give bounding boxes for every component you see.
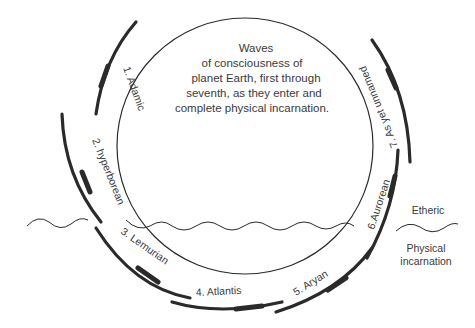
arrow-2-hyperborean [62,114,101,222]
center-text-line-3: planet Earth, first through [191,72,320,84]
center-text-line-4: seventh, as they enter and [186,87,322,99]
legend-etheric: Etheric [412,204,445,216]
wave-label-hyperborean: 2. hyperborean [90,136,128,206]
arrow-4-atlantis [172,302,282,309]
etheric-boundary-wave-left [27,219,88,228]
arrow-6-aurorean-head [390,176,395,196]
wave-label-adamic: 1. Adamic [121,65,148,112]
wave-label-lemurian: 3. Lemurian [119,225,171,267]
legend-incarnation: incarnation [400,255,452,267]
arrow-3-lemurian-head [138,268,158,282]
center-description: Waves of consciousness of planet Earth, … [175,42,329,114]
arrow-1-adamic-head [101,66,108,86]
center-text-line-2: of consciousness of [201,57,303,69]
arrow-2-hyperborean-head [82,172,90,192]
arrow-5-aryan-head [328,278,346,290]
wave-label-atlantis: 4. Atlantis [195,284,241,298]
center-text-line-5: complete physical incarnation. [175,102,329,114]
center-text-line-1: Waves [239,42,274,54]
arrow-4-atlantis-head [236,306,262,309]
legend-wave [396,224,458,232]
wave-label-aryan: 5. Aryan [291,267,330,298]
legend-physical: Physical [406,242,445,254]
etheric-boundary-wave-center [126,220,354,230]
consciousness-waves-diagram: Waves of consciousness of planet Earth, … [0,0,475,328]
